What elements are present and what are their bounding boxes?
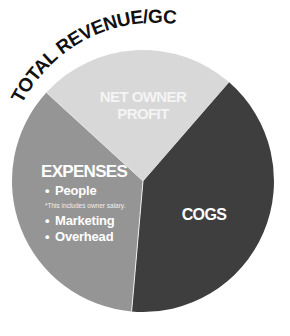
expense-item-overhead: Overhead (55, 229, 114, 244)
expense-note-owner-salary: *This includes owner salary. (45, 202, 126, 210)
label-net-owner-profit-line1: NET OWNER (100, 88, 187, 105)
label-cogs: COGS (182, 206, 228, 223)
bullet-marker: • (45, 229, 50, 244)
label-expenses: EXPENSES (41, 162, 127, 181)
bullet-marker: • (45, 183, 50, 198)
expense-item-people: People (55, 183, 96, 198)
bullet-marker: • (45, 213, 50, 228)
label-net-owner-profit-line2: PROFIT (117, 105, 169, 122)
expense-item-marketing: Marketing (55, 213, 115, 228)
pie-chart: TOTAL REVENUE/GCI NET OWNER PROFIT COGS … (0, 0, 290, 336)
